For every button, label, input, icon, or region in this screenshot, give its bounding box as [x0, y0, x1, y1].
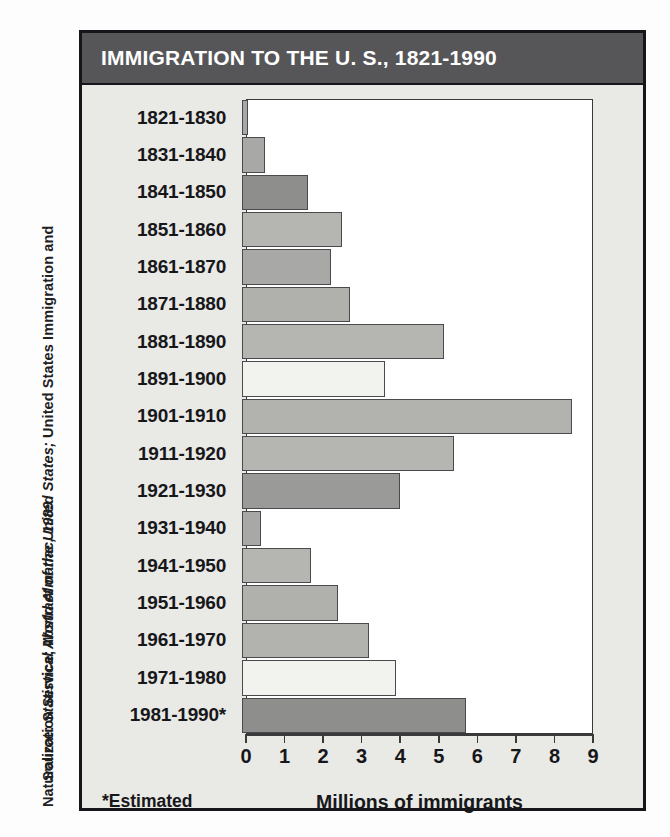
bar — [242, 698, 466, 733]
bar-row-label: 1951-1960 — [82, 592, 242, 614]
x-axis: 0123456789 — [246, 734, 593, 780]
chart-card: IMMIGRATION TO THE U. S., 1821-1990 1821… — [79, 30, 646, 811]
x-axis-tick-label: 9 — [578, 745, 608, 768]
bar-row: 1821-1830 — [82, 99, 643, 136]
x-axis-title: Millions of immigrants — [246, 791, 593, 814]
bar-track — [242, 248, 589, 285]
immigration-chart-figure: Source: Statistical Abstract of the Unit… — [0, 0, 670, 837]
bar-track — [242, 697, 589, 734]
bar-row: 1881-1890 — [82, 323, 643, 360]
bar-row-label: 1871-1880 — [82, 293, 242, 315]
bar — [242, 287, 350, 322]
bar-track — [242, 286, 589, 323]
bar-row-label: 1881-1890 — [82, 331, 242, 353]
bar-row-label: 1971-1980 — [82, 667, 242, 689]
chart-footer: *Estimated Millions of immigrants — [82, 791, 643, 825]
x-axis-tick — [361, 734, 363, 743]
bar-track — [242, 435, 589, 472]
source-line2-prefix: Naturalization Service; — [40, 647, 56, 807]
x-axis-tick — [477, 734, 479, 743]
bar-row: 1941-1950 — [82, 547, 643, 584]
x-axis-tick-label: 7 — [501, 745, 531, 768]
bar-track — [242, 584, 589, 621]
bar-row: 1911-1920 — [82, 435, 643, 472]
x-axis-tick-label: 8 — [539, 745, 569, 768]
x-axis-tick-label: 4 — [385, 745, 415, 768]
bar-track — [242, 211, 589, 248]
chart-title-bar: IMMIGRATION TO THE U. S., 1821-1990 — [82, 33, 643, 85]
bar-row-label: 1891-1900 — [82, 368, 242, 390]
bar — [242, 399, 572, 434]
x-axis-tick — [322, 734, 324, 743]
bar-track — [242, 360, 589, 397]
bar-row: 1971-1980 — [82, 659, 643, 696]
bar — [242, 212, 342, 247]
bar — [242, 548, 311, 583]
bar-row: 1831-1840 — [82, 136, 643, 173]
x-axis-tick-label: 6 — [462, 745, 492, 768]
bar-row: 1951-1960 — [82, 584, 643, 621]
bar-row: 1921-1930 — [82, 472, 643, 509]
bar-row-label: 1901-1910 — [82, 405, 242, 427]
bar — [242, 623, 369, 658]
bar — [242, 511, 261, 546]
bar-row-label: 1831-1840 — [82, 144, 242, 166]
source-credit-line-2: Naturalization Service; World Almanac, 1… — [35, 51, 61, 811]
bar — [242, 137, 265, 172]
bar — [242, 436, 454, 471]
bar-row-label: 1981-1990* — [82, 704, 242, 726]
bar-rows: 1821-18301831-18401841-18501851-18601861… — [82, 99, 643, 734]
x-axis-tick — [438, 734, 440, 743]
x-axis-tick-label: 0 — [231, 745, 261, 768]
bar-row-label: 1841-1850 — [82, 181, 242, 203]
bar — [242, 175, 308, 210]
bar-track — [242, 472, 589, 509]
x-axis-tick-label: 5 — [424, 745, 454, 768]
bar-row: 1841-1850 — [82, 174, 643, 211]
x-axis-tick — [245, 734, 247, 743]
bar — [242, 473, 400, 508]
bar-row-label: 1861-1870 — [82, 256, 242, 278]
bar-track — [242, 398, 589, 435]
bar-row-label: 1941-1950 — [82, 555, 242, 577]
bar-row: 1851-1860 — [82, 211, 643, 248]
bar-track — [242, 510, 589, 547]
bar-track — [242, 622, 589, 659]
x-axis-tick — [554, 734, 556, 743]
bar — [242, 100, 248, 135]
bar — [242, 660, 396, 695]
bar-track — [242, 659, 589, 696]
source-line2-italic: World Almanac, 1989 — [40, 502, 56, 647]
bar-row-label: 1921-1930 — [82, 480, 242, 502]
bar-row: 1931-1940 — [82, 510, 643, 547]
bar-track — [242, 323, 589, 360]
bar-row: 1961-1970 — [82, 622, 643, 659]
bar-row-label: 1911-1920 — [82, 443, 242, 465]
page-title: IMMIGRATION TO THE U. S., 1821-1990 — [82, 46, 497, 70]
x-axis-tick — [284, 734, 286, 743]
bar-row: 1901-1910 — [82, 398, 643, 435]
x-axis-tick — [515, 734, 517, 743]
bar-track — [242, 136, 589, 173]
bar-row: 1871-1880 — [82, 286, 643, 323]
bar-row-label: 1851-1860 — [82, 219, 242, 241]
bar-row-label: 1821-1830 — [82, 107, 242, 129]
bar-row-label: 1931-1940 — [82, 517, 242, 539]
bar-row: 1891-1900 — [82, 360, 643, 397]
bar-row: 1981-1990* — [82, 697, 643, 734]
bar — [242, 585, 338, 620]
x-axis-tick-label: 1 — [270, 745, 300, 768]
x-axis-tick-label: 3 — [347, 745, 377, 768]
x-axis-tick-label: 2 — [308, 745, 338, 768]
plot-area: 1821-18301831-18401841-18501851-18601861… — [82, 85, 643, 808]
x-axis-tick — [592, 734, 594, 743]
bar — [242, 249, 331, 284]
x-axis-line — [246, 734, 593, 736]
bar-track — [242, 174, 589, 211]
bar-track — [242, 547, 589, 584]
bar — [242, 361, 385, 396]
bar — [242, 324, 444, 359]
bar-row: 1861-1870 — [82, 248, 643, 285]
bar-track — [242, 99, 589, 136]
estimated-footnote: *Estimated — [102, 791, 192, 812]
